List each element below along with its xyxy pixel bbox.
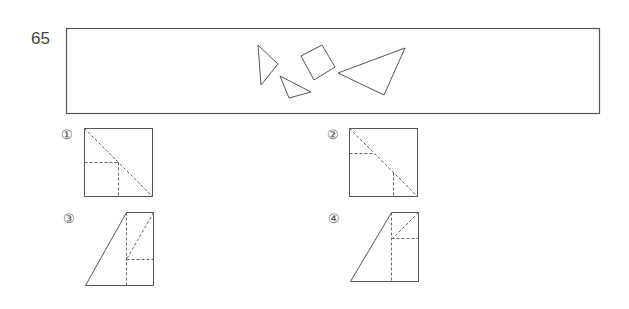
option-1-figure[interactable] — [85, 129, 153, 197]
option-3-figure[interactable] — [86, 213, 154, 286]
large-triangle-piece — [338, 48, 405, 95]
square-piece — [301, 45, 335, 80]
option-2-figure[interactable] — [350, 129, 418, 197]
option-4-figure[interactable] — [351, 213, 419, 282]
tiny-triangle-piece — [280, 76, 311, 98]
figure-canvas — [0, 0, 629, 309]
problem-box — [67, 29, 600, 114]
puzzle-pieces — [258, 45, 405, 98]
small-triangle-piece — [258, 45, 278, 85]
